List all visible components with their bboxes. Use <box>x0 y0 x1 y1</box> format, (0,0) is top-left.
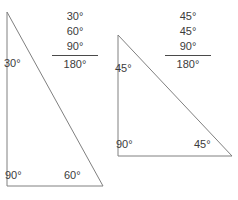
triangle-1-sum-addend-2: 60° <box>52 24 98 39</box>
triangle-1-sum-addend-1: 30° <box>52 9 98 24</box>
triangle-1-angle-bottom-left: 90° <box>5 170 22 181</box>
triangle-2-angle-sum-column: 45° 45° 90° 180° <box>165 9 211 72</box>
triangle-1-angle-bottom-right: 60° <box>64 170 81 181</box>
triangle-2-sum-addend-1: 45° <box>165 9 211 24</box>
triangle-angle-sum-figure: 30° 90° 60° 30° 60° 90° 180° 45° 90° 45°… <box>0 0 238 200</box>
triangle-2-sum-addend-2: 45° <box>165 24 211 39</box>
triangle-2-angle-bottom-left: 90° <box>116 139 133 150</box>
triangle-1-sum-addend-3: 90° <box>52 39 98 56</box>
triangle-1-angle-top-left: 30° <box>4 58 21 69</box>
triangle-2-sum-total: 180° <box>165 57 211 72</box>
triangle-1-angle-sum-column: 30° 60° 90° 180° <box>52 9 98 72</box>
triangle-2-angle-top-left: 45° <box>115 63 132 74</box>
triangle-1-sum-total: 180° <box>52 57 98 72</box>
triangle-2-sum-addend-3: 90° <box>165 39 211 56</box>
triangle-2-angle-bottom-right: 45° <box>194 139 211 150</box>
